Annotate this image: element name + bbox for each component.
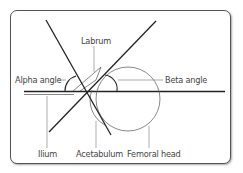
alpha-angle-label: Alpha angle (15, 75, 62, 85)
labrum-shape (73, 67, 101, 91)
hip-angle-diagram: Labrum Alpha angle Beta angle Ilium Acet… (0, 0, 243, 173)
ilium-label: Ilium (38, 149, 57, 159)
labrum-label: Labrum (81, 36, 111, 46)
femoral-head-circle (96, 67, 160, 131)
femoral-head-label: Femoral head (127, 149, 181, 159)
beta-angle-arc (105, 75, 117, 91)
alpha-angle-arc (65, 76, 76, 91)
acetabulum-label: Acetabulum (76, 149, 123, 159)
beta-angle-label: Beta angle (165, 75, 207, 85)
